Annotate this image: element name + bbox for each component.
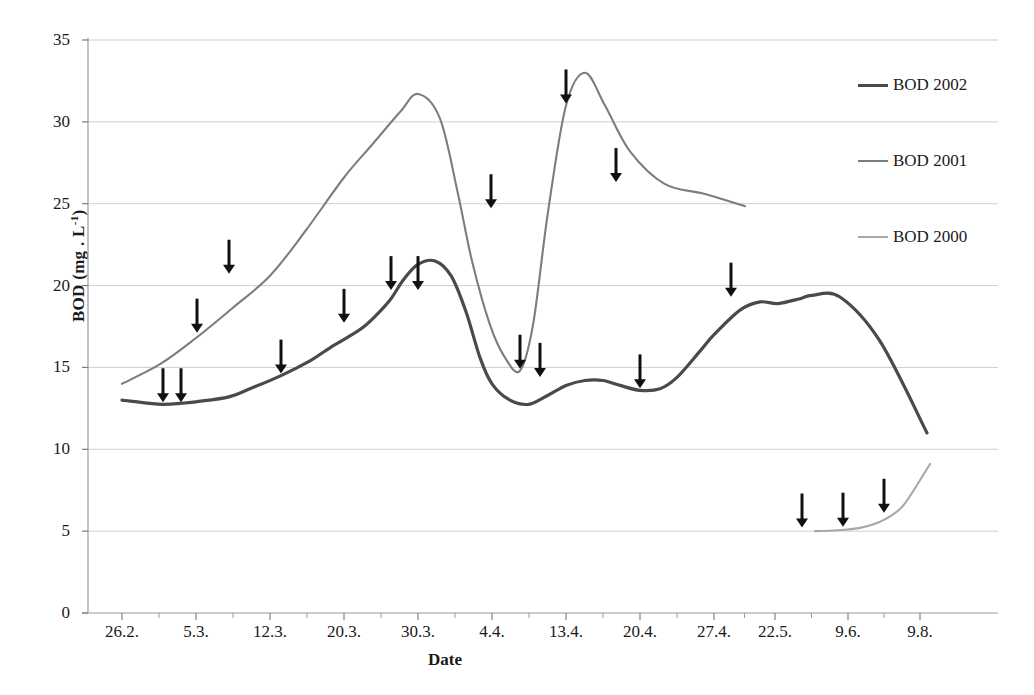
- series-line-bod-2002: [122, 260, 927, 433]
- series-line-bod-2000: [815, 464, 930, 531]
- sampling-arrow: [725, 263, 737, 297]
- legend-label: BOD 2000: [893, 227, 967, 247]
- legend-item-bod-2000[interactable]: BOD 2000: [858, 227, 967, 247]
- sampling-arrow: [157, 368, 169, 402]
- sampling-arrow: [878, 479, 890, 513]
- legend-item-bod-2002[interactable]: BOD 2002: [858, 75, 967, 95]
- legend-line-swatch: [858, 236, 888, 238]
- sampling-arrow: [560, 69, 572, 103]
- sampling-arrow: [191, 299, 203, 333]
- sampling-arrow: [338, 289, 350, 323]
- arrow-head: [837, 518, 849, 527]
- arrow-head: [157, 393, 169, 402]
- arrow-head: [338, 314, 350, 323]
- arrow-head: [610, 173, 622, 182]
- arrow-head: [725, 288, 737, 297]
- legend-label: BOD 2001: [893, 151, 967, 171]
- arrow-head: [175, 393, 187, 402]
- sampling-arrow: [275, 340, 287, 374]
- sampling-arrow: [534, 343, 546, 377]
- sampling-arrow: [175, 368, 187, 402]
- sampling-arrow: [385, 256, 397, 290]
- legend-line-swatch: [858, 160, 888, 162]
- sampling-arrow: [485, 174, 497, 208]
- sampling-arrow: [796, 494, 808, 528]
- arrow-head: [191, 324, 203, 333]
- series-line-bod-2001: [122, 73, 745, 384]
- plot-area: [0, 0, 1034, 695]
- sampling-arrow: [634, 354, 646, 388]
- legend-line-swatch: [858, 84, 888, 87]
- arrow-head: [878, 504, 890, 513]
- arrow-head: [560, 94, 572, 103]
- sampling-arrow: [223, 240, 235, 274]
- arrow-head: [634, 379, 646, 388]
- sampling-arrow: [610, 148, 622, 182]
- arrow-head: [796, 519, 808, 528]
- legend-label: BOD 2002: [893, 75, 967, 95]
- bod-line-chart: BOD (mg . L-1) 05101520253035 26.2.5.3.1…: [0, 0, 1034, 695]
- arrow-head: [223, 265, 235, 274]
- legend-item-bod-2001[interactable]: BOD 2001: [858, 151, 967, 171]
- sampling-arrow: [837, 493, 849, 527]
- arrow-head: [534, 368, 546, 377]
